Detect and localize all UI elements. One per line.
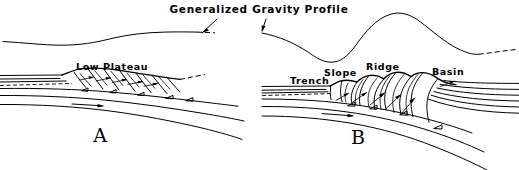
label-ridge: Ridge [366,61,400,72]
subducting-plate-top-b [262,106,484,152]
gravity-annotation-arrow-b [262,19,267,32]
subducting-plate-base-b [262,116,487,170]
figure-title: Generalized Gravity Profile [170,3,349,15]
decollement-b [262,94,330,96]
basin-sediments-b [428,81,519,114]
label-slope: Slope [324,67,357,78]
label-low-plateau: Low Plateau [76,61,148,72]
wedge-top-projection-a [180,75,205,80]
sediment-layer-a-2 [0,79,60,80]
gravity-curve-a [3,32,197,45]
panel-label-a: A [92,124,107,146]
subducting-plate-top-a [0,95,244,121]
gravity-annotation-arrow-a [202,19,217,33]
panel-a: Low Plateau [0,32,244,146]
gravity-curve-b-dashed [479,49,517,54]
panel-label-b: B [351,126,365,148]
label-basin: Basin [432,66,464,77]
basal-detachment-a [0,88,238,106]
gravity-curve-a-dashed [197,32,215,33]
basal-detachment-b [262,99,472,133]
geologic-cross-section-figure: Generalized Gravity Profile Low Plateau [0,0,519,170]
plate-motion-arrow-a [72,104,105,108]
sediment-layer-b-1 [262,86,330,87]
imbricate-thrusts-a [74,69,180,94]
subducting-plate-base-a [0,104,242,139]
sediment-layer-a-1 [0,75,62,76]
sediment-layer-a-3 [0,81,66,82]
sediment-layer-b-3 [262,92,328,93]
panel-b: Trench Slope Ridge Basin [262,13,519,170]
sediment-layer-b-2 [262,89,326,90]
decollement-a [0,84,72,86]
thrust-slip-arrows-a [80,76,159,86]
plate-motion-arrow-b [322,114,355,118]
gravity-curve-b [262,13,479,62]
figure-root: Generalized Gravity Profile Low Plateau [0,0,519,170]
